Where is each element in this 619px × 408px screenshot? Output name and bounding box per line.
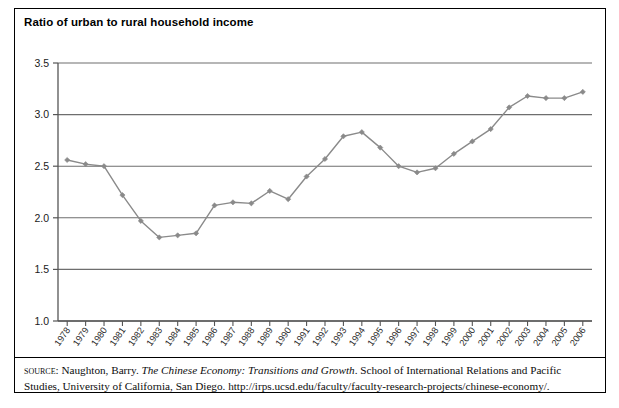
x-tick-label: 1978 — [52, 325, 72, 346]
figure-container: Ratio of urban to rural household income… — [0, 0, 619, 408]
x-tick-label: 1979 — [71, 325, 91, 346]
data-point-marker — [562, 95, 567, 100]
y-tick-label: 2.0 — [34, 212, 49, 224]
x-tick-label: 2005 — [550, 325, 570, 346]
data-point-marker — [543, 95, 548, 100]
x-tick-label: 2000 — [458, 325, 478, 346]
source-label: source — [24, 364, 56, 377]
source-work-title: The Chinese Economy: Transitions and Gro… — [142, 364, 355, 376]
x-tick-label: 1989 — [255, 325, 275, 346]
x-tick-label: 1998 — [421, 325, 441, 346]
x-tick-label: 1996 — [384, 325, 404, 346]
x-tick-label: 1980 — [89, 325, 109, 346]
y-tick-label: 2.5 — [34, 160, 49, 172]
figure-title: Ratio of urban to rural household income — [24, 16, 254, 28]
gridlines-group — [58, 63, 592, 321]
x-tick-label: 1995 — [365, 325, 385, 346]
y-axis-ticks-group: 3.53.02.52.01.51.0 — [34, 57, 58, 327]
source-author: Naughton, Barry. — [61, 364, 141, 376]
y-tick-label: 3.5 — [34, 57, 49, 69]
data-point-marker — [65, 157, 70, 162]
x-tick-label: 1983 — [144, 325, 164, 346]
y-tick-label: 1.0 — [34, 315, 49, 327]
x-tick-label: 1985 — [181, 325, 201, 346]
axis-lines-group — [58, 63, 592, 321]
x-tick-label: 2002 — [494, 325, 514, 346]
x-tick-label: 2004 — [531, 325, 551, 346]
data-point-marker — [414, 170, 419, 175]
x-axis-ticks-group: 1978197919801981198219831984198519861987… — [52, 321, 588, 346]
x-tick-label: 1988 — [237, 325, 257, 346]
x-tick-label: 2003 — [513, 325, 533, 346]
source-divider — [15, 357, 605, 358]
y-tick-label: 1.5 — [34, 263, 49, 275]
x-tick-label: 1982 — [126, 325, 146, 346]
series-line — [67, 92, 583, 238]
x-tick-label: 1984 — [163, 325, 183, 346]
x-tick-label: 1994 — [347, 325, 367, 346]
chart-plot-area: 3.53.02.52.01.51.0 197819791980198119821… — [14, 40, 606, 346]
x-tick-label: 2006 — [568, 325, 588, 346]
source-note: source: Naughton, Barry. The Chinese Eco… — [24, 363, 598, 393]
x-tick-label: 1986 — [200, 325, 220, 346]
data-series-group — [67, 92, 583, 238]
x-tick-label: 2001 — [476, 325, 496, 346]
line-chart: 3.53.02.52.01.51.0 197819791980198119821… — [14, 40, 606, 346]
x-tick-label: 1992 — [310, 325, 330, 346]
y-tick-label: 3.0 — [34, 108, 49, 120]
x-tick-label: 1993 — [329, 325, 349, 346]
data-point-marker — [580, 89, 585, 94]
data-point-marker — [230, 200, 235, 205]
x-tick-label: 1990 — [273, 325, 293, 346]
x-tick-label: 1987 — [218, 325, 238, 346]
x-tick-label: 1991 — [292, 325, 312, 346]
x-tick-label: 1997 — [402, 325, 422, 346]
x-tick-label: 1999 — [439, 325, 459, 346]
data-point-marker — [175, 233, 180, 238]
x-tick-label: 1981 — [108, 325, 128, 346]
